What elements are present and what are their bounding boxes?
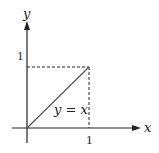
y-tick-label: 1 (17, 48, 24, 63)
y-axis-label: y (22, 6, 31, 21)
diagram-canvas: y x 1 1 y = x (0, 0, 159, 153)
x-axis-label: x (144, 120, 152, 135)
y-axis-arrow-icon (24, 21, 30, 30)
x-axis-arrow-icon (132, 125, 141, 131)
line-label: y = x (53, 102, 89, 117)
x-tick-label: 1 (86, 132, 93, 147)
identity-line (27, 67, 89, 128)
